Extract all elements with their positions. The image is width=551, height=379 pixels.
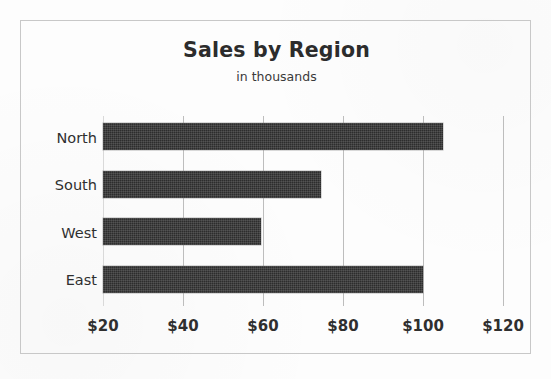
plot-area [103, 116, 500, 306]
chart-image-canvas: Sales by Region in thousands NorthSouthW… [0, 0, 551, 379]
bar-north[interactable] [103, 123, 443, 150]
chart-frame: Sales by Region in thousands NorthSouthW… [20, 20, 531, 354]
chart-title: Sales by Region [21, 38, 532, 62]
bar-row [103, 164, 500, 204]
bar-south[interactable] [103, 171, 321, 198]
y-axis-label-west: West [21, 225, 97, 241]
x-axis-tick-80: $80 [327, 317, 358, 335]
y-axis-label-south: South [21, 177, 97, 193]
bar-west[interactable] [103, 218, 261, 245]
bar-row [103, 211, 500, 251]
x-axis-tick-labels: $20$40$60$80$100$120 [103, 317, 523, 343]
y-axis-label-east: East [21, 272, 97, 288]
bar-row [103, 116, 500, 156]
y-axis-label-north: North [21, 130, 97, 146]
x-axis-tick-100: $100 [402, 317, 444, 335]
x-axis-tick-20: $20 [87, 317, 118, 335]
x-axis-tick-40: $40 [167, 317, 198, 335]
bar-row [103, 259, 500, 299]
y-axis-category-labels: NorthSouthWestEast [21, 116, 97, 306]
gridline-120 [503, 116, 504, 306]
x-axis-tick-60: $60 [247, 317, 278, 335]
bar-east[interactable] [103, 266, 423, 293]
x-axis-tick-120: $120 [482, 317, 524, 335]
chart-subtitle: in thousands [21, 69, 532, 84]
